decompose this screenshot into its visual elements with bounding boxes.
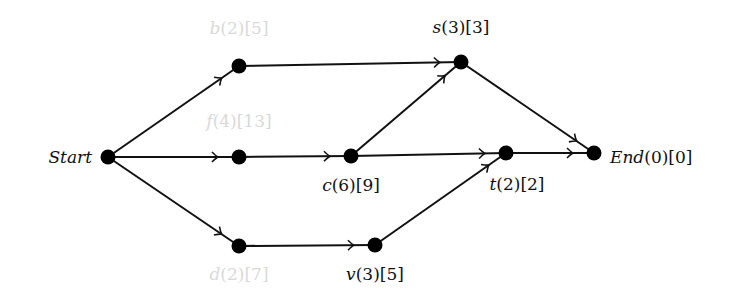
node-label-d: d(2)[7]	[209, 264, 268, 284]
node-label-end: End(0)[0]	[609, 147, 692, 167]
node-label-v: v(3)[5]	[346, 264, 404, 284]
node-v	[368, 238, 383, 253]
node-label-t: t(2)[2]	[489, 174, 544, 194]
edge-s-end	[461, 62, 594, 153]
node-end	[587, 146, 602, 161]
edge-t-end	[506, 148, 594, 158]
edge-b-s	[239, 57, 461, 67]
node-label-b: b(2)[5]	[209, 18, 268, 38]
node-label-s: s(3)[3]	[433, 17, 490, 37]
edge-f-c	[239, 151, 351, 161]
node-f	[232, 150, 247, 165]
edge-c-t	[351, 148, 506, 158]
network-diagram: Startb(2)[5]s(3)[3]f(4)[13]c(6)[9]t(2)[2…	[0, 0, 744, 304]
node-label-start: Start	[48, 147, 92, 167]
node-label-c: c(6)[9]	[322, 175, 380, 195]
node-s	[454, 55, 469, 70]
edge-start-d	[108, 157, 239, 246]
edge-d-v	[239, 240, 375, 250]
edge-v-t	[375, 153, 506, 245]
node-d	[232, 239, 247, 254]
node-b	[232, 59, 247, 74]
node-t	[499, 146, 514, 161]
node-start	[101, 150, 116, 165]
edge-start-f	[108, 152, 239, 162]
node-label-f: f(4)[13]	[204, 111, 271, 131]
edge-c-s	[351, 62, 461, 156]
node-c	[344, 149, 359, 164]
